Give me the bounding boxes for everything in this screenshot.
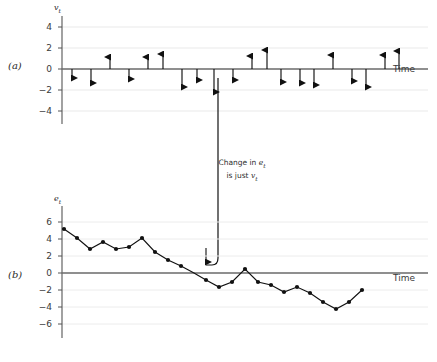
data-point: [179, 264, 183, 268]
data-point: [295, 285, 299, 289]
data-point: [360, 288, 364, 292]
data-point: [101, 240, 105, 244]
brace-hook-bottom: [206, 258, 218, 265]
change-annotation-line-2: is just vt: [203, 171, 281, 184]
panel-a-ytick-minus4: −4: [30, 106, 52, 116]
panel-b-group: [58, 206, 428, 338]
panel-a-x-axis-label: Time: [393, 64, 415, 74]
change-annotation: Change in et is just vt: [203, 158, 281, 183]
data-point: [62, 227, 66, 231]
panel-a-y-ticks: [58, 27, 62, 111]
data-point: [75, 236, 79, 240]
data-point: [269, 283, 273, 287]
change-annotation-line-1: Change in et: [203, 158, 281, 171]
panel-b-y-axis-label: et: [54, 194, 61, 205]
panel-b-ytick-minus2: −2: [30, 285, 52, 295]
panel-b-ytick-2: 2: [30, 251, 52, 261]
data-point: [321, 300, 325, 304]
panel-a-label: (a): [8, 60, 22, 71]
data-point: [256, 280, 260, 284]
panel-a-group: [58, 16, 428, 124]
panel-b-ytick-minus4: −4: [30, 302, 52, 312]
panel-b-ytick-6: 6: [30, 217, 52, 227]
data-point: [204, 278, 208, 282]
figure-panel-container: (a) (b) vt et Time Time 4 2 0 −2 −4 6 4 …: [0, 0, 437, 362]
panel-b-x-axis-label: Time: [393, 273, 415, 283]
data-point: [127, 245, 131, 249]
data-point: [282, 290, 286, 294]
data-point: [243, 267, 247, 271]
panel-a-shock-arrows: [72, 50, 399, 92]
panel-b-ytick-4: 4: [30, 234, 52, 244]
data-point: [88, 247, 92, 251]
panel-a-ytick-4: 4: [30, 22, 52, 32]
panel-b-y-ticks: [58, 222, 62, 324]
panel-b-ytick-minus6: −6: [30, 319, 52, 329]
data-point: [217, 285, 221, 289]
data-point: [334, 307, 338, 311]
panel-a-ytick-2: 2: [30, 43, 52, 53]
data-point: [114, 247, 118, 251]
panel-b-series-line: [64, 229, 362, 309]
panel-a-y-axis-label: vt: [54, 3, 61, 14]
data-point: [153, 250, 157, 254]
panel-a-ytick-minus2: −2: [30, 85, 52, 95]
panel-b-label: (b): [8, 269, 22, 280]
data-point: [347, 300, 351, 304]
data-point: [140, 236, 144, 240]
panel-a-ytick-0: 0: [30, 64, 52, 74]
panel-b-ytick-0: 0: [30, 268, 52, 278]
data-point: [166, 258, 170, 262]
data-point: [230, 280, 234, 284]
data-point: [308, 291, 312, 295]
